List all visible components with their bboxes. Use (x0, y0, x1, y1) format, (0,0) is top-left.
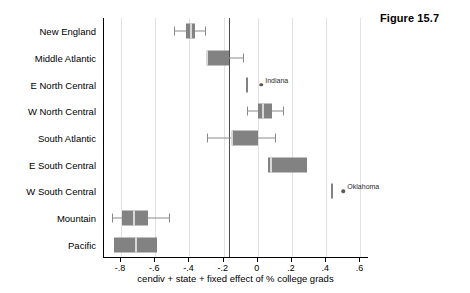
whisker-high (229, 58, 243, 59)
x-tick-label: -.8 (115, 263, 126, 273)
gridline-.6 (360, 18, 361, 257)
box (232, 131, 258, 146)
category-label: New England (39, 26, 96, 37)
median-line (231, 131, 233, 146)
outlier-point (260, 83, 264, 87)
x-axis-title: cendiv + state + fixed effect of % colle… (103, 273, 368, 284)
x-tick (188, 258, 189, 262)
whisker-cap-low (112, 214, 113, 223)
category-label: W North Central (28, 106, 96, 117)
whisker-low (112, 218, 122, 219)
x-tick-label: 0 (254, 263, 259, 273)
x-tick-label: .4 (321, 263, 329, 273)
x-tick (325, 258, 326, 262)
figure-root: Figure 15.7 New EnglandMiddle AtlanticE … (0, 0, 470, 293)
category-label: Pacific (68, 239, 96, 250)
whisker-low (174, 31, 186, 32)
whisker-cap-high (243, 54, 244, 63)
gridline-.2 (292, 18, 293, 257)
category-label: Mountain (57, 213, 96, 224)
whisker-cap-low (247, 107, 248, 116)
gridline-.4 (326, 18, 327, 257)
x-tick (223, 258, 224, 262)
box (258, 104, 272, 119)
whisker-cap-high (275, 134, 276, 143)
whisker-high (272, 111, 283, 112)
category-label: E South Central (29, 159, 96, 170)
median-line (262, 104, 264, 119)
x-tick-label: -.4 (183, 263, 194, 273)
median-line (133, 211, 135, 226)
x-tick (359, 258, 360, 262)
gridline--.6 (155, 18, 156, 257)
whisker-cap-high (169, 214, 170, 223)
category-label: E North Central (31, 79, 96, 90)
box (207, 51, 229, 66)
median-line (190, 24, 192, 39)
whisker-low (247, 111, 258, 112)
gridline--.4 (189, 18, 190, 257)
whisker-low (207, 138, 233, 139)
box (268, 157, 308, 172)
median-line (135, 237, 137, 252)
whisker-cap-high (283, 107, 284, 116)
x-tick-label: -.2 (217, 263, 228, 273)
whisker-high (148, 218, 169, 219)
category-label: South Atlantic (38, 133, 96, 144)
box (246, 77, 248, 92)
category-axis-labels: New EnglandMiddle AtlanticE North Centra… (0, 18, 98, 258)
outlier-label: Indiana (265, 76, 288, 83)
whisker-high (258, 138, 275, 139)
x-tick-label: -.6 (149, 263, 160, 273)
whisker-cap-high (205, 27, 206, 36)
outlier-point (342, 190, 346, 194)
plot-area: IndianaOklahoma (103, 18, 368, 258)
median-line (206, 51, 208, 66)
whisker-cap-low (174, 27, 175, 36)
outlier-label: Oklahoma (347, 183, 379, 190)
category-label: Middle Atlantic (35, 53, 96, 64)
x-tick (154, 258, 155, 262)
x-tick (291, 258, 292, 262)
plot-inner: IndianaOklahoma (104, 18, 368, 257)
median-line (270, 157, 272, 172)
x-tick-label: .6 (356, 263, 364, 273)
figure-caption: Figure 15.7 (380, 12, 439, 24)
category-label: W South Central (26, 186, 96, 197)
whisker-high (195, 31, 204, 32)
box (331, 184, 334, 199)
x-tick-label: .2 (287, 263, 295, 273)
whisker-cap-low (207, 134, 208, 143)
box (122, 211, 148, 226)
x-tick (120, 258, 121, 262)
x-tick (257, 258, 258, 262)
